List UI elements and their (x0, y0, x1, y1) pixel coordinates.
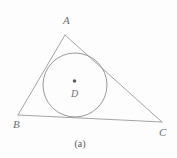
triangle-side-ab (18, 35, 65, 115)
triangle-side-bc (18, 115, 162, 122)
vertex-label-c: C (159, 126, 167, 138)
vertex-label-a: A (62, 14, 70, 26)
incenter-label-d: D (70, 88, 79, 99)
vertex-label-b: B (13, 118, 20, 130)
incenter-point-dot (73, 79, 77, 83)
triangle-side-ca (65, 35, 162, 122)
inscribed-circle (43, 53, 107, 117)
figure-caption: (a) (74, 138, 85, 150)
triangle-incircle-diagram: A B C D (a) (0, 0, 177, 158)
figure-container: A B C D (a) (0, 0, 177, 158)
